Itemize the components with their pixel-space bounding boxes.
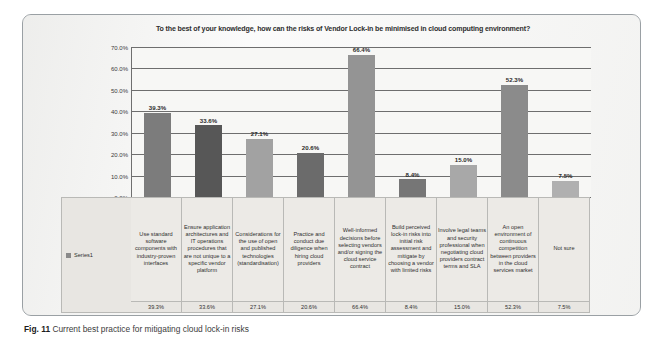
series-value-cell: 33.6% [182, 302, 233, 313]
series-value-cell: 20.6% [284, 302, 335, 313]
category-label-cell: Use standard software components with in… [131, 198, 182, 302]
bar-slot: 33.6% [183, 47, 234, 197]
category-label-cell: Involve legal teams and security profess… [437, 198, 488, 302]
series-value-row: Series1 39.3%33.6%27.1%20.6%66.4%8.4%15.… [131, 302, 590, 313]
chart-title: To the best of your knowledge, how can t… [73, 25, 613, 34]
bar-slot: 66.4% [336, 47, 387, 197]
bar[interactable]: 52.3% [501, 85, 529, 197]
bar-value-label: 66.4% [353, 46, 370, 53]
y-axis-tick-label: 10.0% [111, 174, 132, 180]
bar[interactable]: 8.4% [399, 179, 427, 197]
bar-value-label: 20.6% [302, 144, 319, 151]
category-label-cell: Well-informed decisions before selecting… [335, 198, 386, 302]
bar[interactable]: 15.0% [450, 165, 478, 197]
bar-slot: 39.3% [132, 47, 183, 197]
category-label-cell: Ensure application architectures and IT … [182, 198, 233, 302]
bar-value-label: 7.5% [559, 172, 573, 179]
category-label-cell: Not sure [539, 198, 590, 302]
figure-caption-text: Current best practice for mitigating clo… [52, 324, 248, 334]
y-axis-tick-label: 20.0% [111, 152, 132, 158]
bar-value-label: 52.3% [506, 76, 523, 83]
bar-value-label: 15.0% [455, 156, 472, 163]
category-data-table: Use standard software components with in… [131, 197, 590, 313]
y-axis-tick-label: 30.0% [111, 131, 132, 137]
bar-slot: 20.6% [285, 47, 336, 197]
series-value-cell: 15.0% [437, 302, 488, 313]
series-value-cell: 66.4% [335, 302, 386, 313]
series-value-cell: 39.3% [131, 302, 182, 313]
bar[interactable]: 66.4% [348, 55, 376, 197]
series-value-cell: 52.3% [488, 302, 539, 313]
bar-slot: 7.5% [540, 47, 591, 197]
series-value-cell: 27.1% [233, 302, 284, 313]
legend-series-label: Series1 [74, 252, 93, 258]
legend-swatch-icon [66, 253, 71, 258]
bar-value-label: 33.6% [200, 117, 217, 124]
category-label-cell: Considerations for the use of open and p… [233, 198, 284, 302]
category-label-cell: Practice and conduct due diligence when … [284, 198, 335, 302]
bar-slot: 15.0% [438, 47, 489, 197]
category-label-cell: Build perceived lock-in risks into initi… [386, 198, 437, 302]
y-axis-tick-label: 50.0% [111, 88, 132, 94]
bar[interactable]: 27.1% [246, 139, 274, 197]
bar[interactable]: 7.5% [552, 181, 580, 197]
legend-entry: Series1 [61, 197, 131, 313]
category-label-row: Use standard software components with in… [131, 197, 590, 302]
bar[interactable]: 39.3% [144, 113, 172, 197]
plot-area: 70.0%60.0%50.0%40.0%30.0%20.0%10.0%0.0% … [131, 47, 591, 197]
bar-slot: 8.4% [387, 47, 438, 197]
y-axis-tick-label: 70.0% [111, 45, 132, 51]
bar[interactable]: 20.6% [297, 153, 325, 197]
bar[interactable]: 33.6% [195, 125, 223, 197]
figure-caption-label: Fig. 11 [24, 324, 50, 334]
bar-chart: To the best of your knowledge, how can t… [23, 15, 641, 316]
y-axis-tick-label: 40.0% [111, 109, 132, 115]
bars-group: 39.3%33.6%27.1%20.6%66.4%8.4%15.0%52.3%7… [132, 47, 591, 197]
series-value-cell: 8.4% [386, 302, 437, 313]
figure-page: To the best of your knowledge, how can t… [0, 0, 663, 350]
bar-value-label: 27.1% [251, 130, 268, 137]
category-label-cell: An open environment of continuous compet… [488, 198, 539, 302]
series-value-cell: 7.5% [539, 302, 590, 313]
bar-value-label: 39.3% [149, 104, 166, 111]
bar-slot: 52.3% [489, 47, 540, 197]
y-axis-tick-label: 60.0% [111, 66, 132, 72]
figure-frame: To the best of your knowledge, how can t… [22, 14, 641, 316]
figure-caption: Fig. 11 Current best practice for mitiga… [24, 324, 644, 335]
bar-value-label: 8.4% [406, 171, 420, 178]
bar-slot: 27.1% [234, 47, 285, 197]
